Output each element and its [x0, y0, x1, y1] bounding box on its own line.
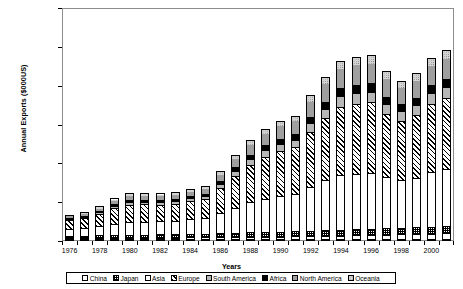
bar-segment: [353, 94, 360, 105]
legend-item-asia[interactable]: Asia: [145, 275, 165, 282]
bar-segment: [322, 84, 329, 102]
bar[interactable]: [231, 155, 240, 241]
bar-segment: [307, 124, 314, 132]
bar[interactable]: [216, 171, 225, 241]
bar-segment: [217, 175, 224, 182]
bar-segment: [202, 219, 209, 234]
bar-segment: [172, 205, 179, 222]
bar[interactable]: [246, 140, 255, 241]
bar-segment: [368, 64, 375, 85]
legend-label: North America: [300, 275, 342, 282]
bar-segment: [383, 236, 390, 240]
bar[interactable]: [80, 212, 89, 241]
bar-segment: [277, 238, 284, 240]
plot-area: [62, 8, 454, 241]
x-tick-mark: [273, 241, 274, 245]
bar-segment: [277, 152, 284, 197]
chart-legend: ChinaJapanAsiaEuropeSouth AmericaAfricaN…: [66, 272, 396, 284]
bar[interactable]: [65, 215, 74, 241]
bar-segment: [322, 119, 329, 181]
legend-item-africa[interactable]: Africa: [262, 275, 286, 282]
x-tick-mark: [424, 241, 425, 245]
legend-label: Oceania: [355, 275, 380, 282]
x-tick-mark: [183, 241, 184, 245]
bar[interactable]: [367, 55, 376, 241]
legend-item-oceania[interactable]: Oceania: [348, 275, 380, 282]
bar-segment: [353, 175, 360, 231]
bar-segment: [262, 200, 269, 234]
bar[interactable]: [412, 73, 421, 241]
bar[interactable]: [201, 186, 210, 241]
legend-swatch-icon: [113, 275, 119, 281]
bar[interactable]: [382, 71, 391, 241]
x-tick-label: 1996: [363, 247, 379, 254]
bar-segment: [443, 99, 450, 170]
bar-segment: [413, 99, 420, 106]
bar-segment: [126, 206, 133, 223]
bar-segment: [428, 86, 435, 94]
bar-segment: [217, 238, 224, 240]
bar-segment: [443, 80, 450, 88]
bar[interactable]: [186, 189, 195, 241]
bar[interactable]: [306, 95, 315, 241]
bar-segment: [337, 97, 344, 107]
bar-segment: [383, 115, 390, 179]
bar-segment: [202, 200, 209, 219]
bar-segment: [262, 134, 269, 146]
bar[interactable]: [336, 61, 345, 241]
bar-segment: [428, 94, 435, 104]
bar-segment: [277, 145, 284, 152]
bar-segment: [383, 178, 390, 229]
bar[interactable]: [442, 50, 451, 241]
x-tick-label: 1984: [182, 247, 198, 254]
bars-layer: [62, 8, 454, 241]
bar-segment: [443, 51, 450, 58]
x-tick-mark: [152, 241, 153, 245]
bar-segment: [126, 239, 133, 240]
legend-item-china[interactable]: China: [82, 275, 107, 282]
x-tick-mark: [409, 241, 410, 245]
legend-item-europe[interactable]: Europe: [171, 275, 200, 282]
bar-segment: [398, 112, 405, 121]
bar[interactable]: [352, 57, 361, 241]
bar[interactable]: [276, 121, 285, 241]
bar-segment: [187, 202, 194, 220]
x-tick-mark: [453, 241, 454, 245]
legend-item-south-america[interactable]: South America: [206, 275, 256, 282]
bar[interactable]: [321, 77, 330, 241]
bar[interactable]: [171, 192, 180, 241]
x-axis-labels: 1976197819801982198419861988199019921994…: [62, 247, 454, 259]
bar-segment: [96, 227, 103, 236]
bar-segment: [383, 105, 390, 115]
bar-segment: [187, 238, 194, 240]
x-tick-mark: [258, 241, 259, 245]
bar-segment: [428, 59, 435, 66]
legend-swatch-icon: [171, 275, 177, 281]
bar-segment: [322, 103, 329, 110]
bar[interactable]: [397, 81, 406, 241]
legend-item-north-america[interactable]: North America: [292, 275, 341, 282]
bar-segment: [262, 158, 269, 200]
bar-segment: [398, 88, 405, 105]
bar[interactable]: [140, 193, 149, 241]
bar[interactable]: [427, 58, 436, 241]
bar-segment: [187, 220, 194, 235]
bar-segment: [398, 105, 405, 112]
bar-segment: [398, 181, 405, 229]
bar[interactable]: [125, 193, 134, 241]
bar-segment: [443, 88, 450, 99]
bar[interactable]: [110, 198, 119, 241]
legend-label: Europe: [178, 275, 199, 282]
bar-segment: [247, 238, 254, 240]
bar-segment: [413, 116, 420, 179]
x-tick-mark: [213, 241, 214, 245]
x-tick-mark: [228, 241, 229, 245]
bar[interactable]: [261, 129, 270, 241]
legend-item-japan[interactable]: Japan: [113, 275, 138, 282]
x-tick-label: 1990: [273, 247, 289, 254]
bar[interactable]: [156, 193, 165, 241]
bar-segment: [353, 86, 360, 94]
x-tick-label: 1980: [122, 247, 138, 254]
bar[interactable]: [291, 116, 300, 241]
bar[interactable]: [95, 206, 104, 241]
